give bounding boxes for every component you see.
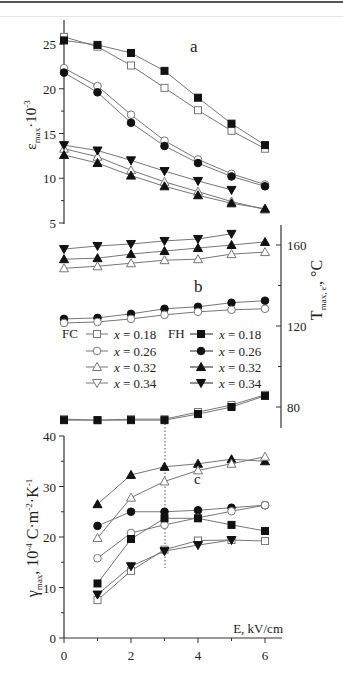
data-point — [127, 508, 135, 516]
legend-label-fc: x = 0.32 — [113, 360, 156, 375]
data-point — [228, 306, 236, 314]
legend-label-fc: x = 0.34 — [113, 376, 157, 391]
y-tick-label: 15 — [43, 127, 56, 142]
panel-b-label: b — [194, 277, 203, 296]
legend-group-fc: FC — [62, 326, 78, 341]
data-point — [94, 89, 102, 97]
x-tick-label: 6 — [262, 648, 269, 663]
panel-a-y-axis: 510152025 — [43, 20, 64, 231]
data-point — [94, 318, 102, 326]
data-point — [228, 173, 236, 181]
data-point — [261, 297, 269, 305]
legend-marker-fc — [94, 331, 101, 338]
data-point — [261, 452, 270, 460]
data-point — [128, 49, 135, 56]
series-fh-x-0-34 — [60, 230, 237, 253]
data-point — [94, 522, 102, 530]
legend-row: x = 0.26x = 0.26 — [86, 344, 262, 359]
panel-a-series — [60, 33, 270, 213]
series-fh-x-0-32 — [93, 455, 270, 508]
legend-marker-fc — [93, 347, 101, 355]
data-point — [127, 119, 135, 127]
legend: FC FH x = 0.18x = 0.18x = 0.26x = 0.26x … — [62, 326, 262, 391]
data-point — [194, 308, 202, 316]
data-point — [262, 527, 269, 534]
data-point — [60, 246, 69, 254]
y-tick-label: 25 — [43, 37, 56, 52]
legend-label-fh: x = 0.26 — [218, 344, 262, 359]
legend-label-fc: x = 0.18 — [113, 327, 156, 342]
y-tick-label: 5 — [50, 216, 57, 231]
data-point — [128, 536, 135, 543]
legend-label-fh: x = 0.18 — [218, 327, 261, 342]
data-point — [195, 515, 202, 522]
legend-label-fh: x = 0.32 — [218, 360, 261, 375]
series-line — [64, 234, 232, 249]
y-tick-label: 10 — [43, 171, 56, 186]
data-point — [127, 493, 136, 501]
series-fh-x-0-26 — [94, 501, 269, 529]
series-line — [98, 457, 266, 538]
figure: 510152025 80120160 0102030400246 a b c ε… — [0, 0, 343, 681]
series-fc-x-0-18 — [61, 33, 269, 152]
y-tick-label: 40 — [43, 429, 56, 444]
x-tick-label: 4 — [195, 648, 202, 663]
data-point — [61, 417, 68, 424]
y-tick-label: 20 — [43, 530, 56, 545]
panel-b-y-axis: 80120160 — [276, 225, 307, 428]
data-point — [228, 521, 235, 528]
legend-row: x = 0.34x = 0.34 — [86, 376, 262, 391]
data-point — [228, 299, 236, 307]
series-line — [98, 540, 266, 600]
data-point — [194, 159, 202, 167]
data-point — [195, 94, 202, 101]
panel-a-label: a — [190, 37, 198, 56]
y-tick-label: 160 — [287, 238, 307, 253]
panel-c-series — [93, 452, 270, 603]
data-point — [228, 120, 235, 127]
series-fh-x-0-18 — [61, 37, 269, 149]
data-point — [195, 107, 202, 114]
data-point — [261, 237, 270, 245]
data-point — [261, 183, 269, 191]
panel-a-y-label: εmax·10-3 — [22, 100, 42, 150]
legend-marker-fh — [198, 331, 205, 338]
data-point — [161, 142, 169, 150]
data-point — [127, 111, 135, 119]
data-point — [160, 477, 169, 485]
data-point — [261, 248, 270, 256]
data-point — [128, 62, 135, 69]
data-point — [228, 404, 235, 411]
series-line — [98, 459, 266, 504]
legend-group-fh: FH — [168, 326, 185, 341]
data-point — [228, 127, 235, 134]
data-point — [61, 37, 68, 44]
panel-c-label: c — [194, 471, 201, 487]
y-tick-label: 10 — [43, 581, 56, 596]
series-line — [64, 145, 232, 190]
y-tick-label: 120 — [287, 319, 307, 334]
series-fh-x-0-18 — [94, 515, 269, 587]
data-point — [262, 392, 269, 399]
data-point — [128, 417, 135, 424]
legend-label-fh: x = 0.34 — [218, 376, 262, 391]
data-point — [161, 67, 168, 74]
data-point — [161, 311, 169, 319]
data-point — [60, 69, 68, 77]
panel-b-y-label: Tmax, ε', °C — [308, 260, 328, 320]
panel-c-x-label: E, kV/cm — [233, 621, 283, 636]
data-point — [94, 417, 101, 424]
legend-label-fc: x = 0.26 — [113, 344, 157, 359]
data-point — [228, 507, 236, 515]
y-tick-label: 0 — [50, 631, 57, 646]
data-point — [227, 186, 236, 194]
data-point — [261, 501, 269, 509]
y-tick-label: 20 — [43, 82, 56, 97]
data-point — [94, 554, 102, 562]
y-tick-label: 80 — [287, 400, 300, 415]
data-point — [94, 41, 101, 48]
panel-c-y-label: γmax, 10-4 C·m-2·K-1 — [24, 479, 44, 598]
y-tick-label: 30 — [43, 480, 56, 495]
data-point — [262, 538, 269, 545]
data-point — [195, 411, 202, 418]
